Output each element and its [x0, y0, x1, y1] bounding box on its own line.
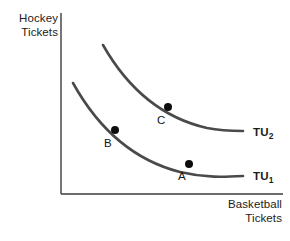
curve-tu2 — [103, 45, 243, 131]
curve-label-tu2: TU2 — [253, 126, 274, 141]
point-label-a: A — [178, 170, 186, 182]
indifference-curve-figure: Hockey Tickets Basketball Tickets A B C … — [0, 0, 290, 241]
data-point-c — [164, 103, 172, 111]
curve-label-tu1: TU1 — [253, 170, 274, 185]
curve-label-tu2-subscript: 2 — [269, 131, 274, 141]
data-point-a — [185, 160, 193, 168]
point-label-b: B — [104, 137, 112, 149]
point-label-c: C — [157, 114, 165, 126]
curve-label-tu1-text: TU — [253, 170, 269, 182]
curve-label-tu2-text: TU — [253, 126, 269, 138]
x-axis-title: Basketball Tickets — [196, 198, 282, 225]
data-point-b — [111, 126, 119, 134]
curve-label-tu1-subscript: 1 — [269, 175, 274, 185]
y-axis-title: Hockey Tickets — [6, 12, 58, 39]
